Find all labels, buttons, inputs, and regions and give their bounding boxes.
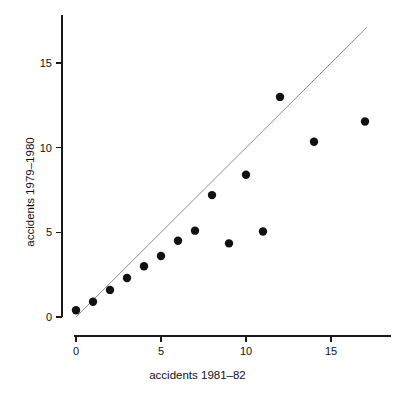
data-point — [106, 286, 114, 294]
scatter-plot-figure: 051015 051015 accidents 1981–82 accident… — [0, 0, 395, 395]
x-axis-title: accidents 1981–82 — [0, 369, 395, 381]
data-point — [242, 171, 250, 179]
plot-area: 051015 051015 — [0, 0, 395, 395]
x-tick-label: 5 — [158, 345, 164, 357]
data-point — [157, 252, 165, 260]
data-point — [174, 237, 182, 245]
data-point — [361, 117, 369, 125]
data-point — [310, 138, 318, 146]
data-point — [276, 93, 284, 101]
data-point — [123, 274, 131, 282]
x-tick-label: 10 — [240, 345, 252, 357]
x-tick-label: 0 — [73, 345, 79, 357]
data-point — [259, 227, 267, 235]
reference-line-group — [76, 27, 367, 317]
data-point — [208, 191, 216, 199]
y-tick-label: 15 — [28, 57, 52, 69]
identity-reference-line — [76, 27, 367, 317]
data-point — [72, 306, 80, 314]
plot-canvas — [0, 0, 395, 395]
y-tick-label: 0 — [28, 311, 52, 323]
data-point-group — [72, 93, 369, 315]
data-point — [225, 239, 233, 247]
x-tick-label: 15 — [325, 345, 337, 357]
data-point — [140, 262, 148, 270]
data-point — [89, 298, 97, 306]
tick-mark-group — [56, 63, 331, 342]
data-point — [191, 226, 199, 234]
y-axis-title: accidents 1979–1980 — [24, 92, 36, 292]
